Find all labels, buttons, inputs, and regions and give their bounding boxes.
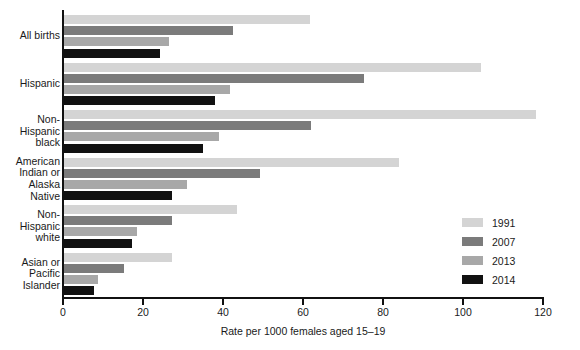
legend-swatch-2013: [462, 256, 483, 265]
bar-1991: [63, 63, 481, 72]
x-tick-label: 120: [534, 306, 552, 318]
legend: 1991200720132014: [462, 213, 562, 289]
bar-1991: [63, 110, 536, 119]
bar-2014: [63, 239, 132, 248]
x-tick-label: 80: [377, 306, 389, 318]
bar-2007: [63, 26, 233, 35]
x-tick-mark: [302, 299, 304, 305]
bar-2014: [63, 96, 215, 105]
teen-birth-rate-bar-chart: All birthsHispanicNon-HispanicblackAmeri…: [0, 0, 580, 350]
x-axis-title: Rate per 1000 females aged 15–19: [63, 325, 543, 337]
category-label-line: Indian or: [19, 166, 60, 178]
bar-1991: [63, 253, 172, 262]
x-tick-label: 40: [217, 306, 229, 318]
category-label-line: American: [16, 155, 60, 167]
bar-2013: [63, 180, 187, 189]
x-tick-label: 20: [137, 306, 149, 318]
x-tick-mark: [222, 299, 224, 305]
legend-swatch-1991: [462, 218, 483, 227]
x-tick-mark: [382, 299, 384, 305]
bar-2014: [63, 144, 203, 153]
bar-2013: [63, 132, 219, 141]
legend-swatch-2014: [462, 275, 483, 284]
bar-2013: [63, 275, 98, 284]
legend-item-2007: 2007: [462, 232, 562, 251]
x-tick-label: 60: [297, 306, 309, 318]
category-label-line: Hispanic: [20, 125, 60, 137]
category-label-line: Pacific: [29, 267, 60, 279]
category-label: Non-Hispanicblack: [2, 114, 60, 149]
x-tick-label: 0: [60, 306, 66, 318]
bar-1991: [63, 15, 310, 24]
bar-1991: [63, 205, 237, 214]
category-label-line: Hispanic: [20, 220, 60, 232]
bar-2007: [63, 121, 311, 130]
bar-2014: [63, 191, 172, 200]
x-tick-mark: [62, 299, 64, 305]
legend-label: 2014: [492, 274, 515, 286]
category-label-line: Hispanic: [20, 77, 60, 89]
category-label-line: black: [35, 136, 60, 148]
category-label-line: Native: [30, 189, 60, 201]
legend-label: 2007: [492, 236, 515, 248]
bar-2013: [63, 85, 230, 94]
category-axis-labels: All birthsHispanicNon-HispanicblackAmeri…: [0, 0, 60, 350]
bar-2013: [63, 227, 137, 236]
bar-2007: [63, 74, 364, 83]
bar-2007: [63, 264, 124, 273]
x-tick-mark: [462, 299, 464, 305]
bar-2014: [63, 286, 94, 295]
legend-item-1991: 1991: [462, 213, 562, 232]
legend-item-2014: 2014: [462, 270, 562, 289]
bar-2014: [63, 49, 160, 58]
category-label-line: Islander: [23, 279, 60, 291]
x-tick-mark: [142, 299, 144, 305]
legend-item-2013: 2013: [462, 251, 562, 270]
category-label-line: Non-: [37, 208, 60, 220]
legend-label: 1991: [492, 217, 515, 229]
bar-2007: [63, 169, 260, 178]
category-label-line: All births: [20, 30, 60, 42]
category-label: AmericanIndian orAlaskaNative: [2, 156, 60, 202]
category-label-line: Alaska: [28, 178, 60, 190]
category-label: All births: [2, 31, 60, 43]
x-tick-label: 100: [454, 306, 472, 318]
category-label: Hispanic: [2, 78, 60, 90]
bar-2007: [63, 216, 172, 225]
category-label-line: Asian or: [21, 255, 60, 267]
y-axis-line: [62, 10, 64, 298]
category-label-line: Non-: [37, 113, 60, 125]
bar-2013: [63, 37, 169, 46]
category-label: Asian orPacificIslander: [2, 256, 60, 291]
x-tick-mark: [542, 299, 544, 305]
legend-swatch-2007: [462, 237, 483, 246]
category-label-line: white: [35, 231, 60, 243]
bar-1991: [63, 158, 399, 167]
legend-label: 2013: [492, 255, 515, 267]
category-label: Non-Hispanicwhite: [2, 209, 60, 244]
